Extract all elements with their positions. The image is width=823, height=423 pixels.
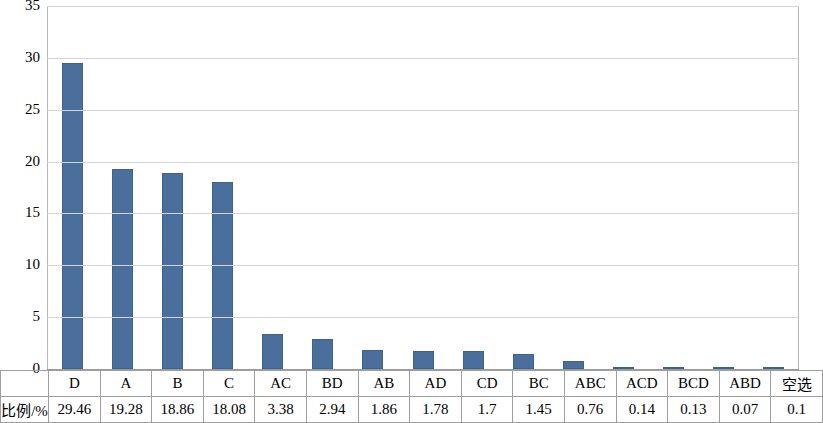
bar xyxy=(262,334,283,369)
table-value-cell: 1.7 xyxy=(461,397,513,423)
bar xyxy=(212,182,233,370)
bar xyxy=(362,350,383,369)
table-header-cell: AB xyxy=(358,371,410,397)
bar xyxy=(563,361,584,369)
gridline xyxy=(47,6,799,7)
table-header-cell: BC xyxy=(513,371,565,397)
table-header-cell: BD xyxy=(306,371,358,397)
table-value-cell: 18.08 xyxy=(203,397,255,423)
data-table-wrap: DABCACBDABADCDBCABCACDBCDABD空选 比例/%29.46… xyxy=(0,370,806,421)
gridline xyxy=(47,162,799,163)
bar xyxy=(463,351,484,369)
table-value-cell: 0.13 xyxy=(668,397,720,423)
table-value-cell: 29.46 xyxy=(49,397,101,423)
gridline xyxy=(47,265,799,266)
y-axis-tick-label: 15 xyxy=(0,205,47,220)
table-value-cell: 0.07 xyxy=(719,397,771,423)
table-header-cell: C xyxy=(203,371,255,397)
table-header-cell: D xyxy=(49,371,101,397)
table-header-cell: A xyxy=(100,371,152,397)
y-axis-tick-label: 30 xyxy=(0,50,47,65)
bar xyxy=(112,169,133,369)
bar xyxy=(312,339,333,369)
bar xyxy=(162,173,183,369)
table-header-cell: B xyxy=(152,371,204,397)
table-value-cell: 0.1 xyxy=(771,397,823,423)
y-axis-tick-label: 25 xyxy=(0,102,47,117)
table-header-cell: BCD xyxy=(668,371,720,397)
table-value-cell: 0.14 xyxy=(616,397,668,423)
table-value-cell: 2.94 xyxy=(306,397,358,423)
y-axis-tick-label: 10 xyxy=(0,257,47,272)
y-axis-tick-label: 35 xyxy=(0,0,47,13)
gridline xyxy=(47,317,799,318)
y-axis-tick-label: 5 xyxy=(0,309,47,324)
table-header-cell: AD xyxy=(410,371,462,397)
table-row-values: 比例/%29.4619.2818.8618.083.382.941.861.78… xyxy=(1,397,823,423)
table-header-cell: CD xyxy=(461,371,513,397)
table-row-label: 比例/% xyxy=(1,397,49,423)
gridline xyxy=(47,58,799,59)
table-value-cell: 0.76 xyxy=(564,397,616,423)
table-value-cell: 3.38 xyxy=(255,397,307,423)
table-row-categories: DABCACBDABADCDBCABCACDBCDABD空选 xyxy=(1,371,823,397)
table-header-cell: ABC xyxy=(564,371,616,397)
table-header-cell: ACD xyxy=(616,371,668,397)
bar xyxy=(513,354,534,369)
bars-layer xyxy=(47,6,799,370)
gridline xyxy=(47,110,799,111)
gridline xyxy=(47,213,799,214)
table-value-cell: 18.86 xyxy=(152,397,204,423)
table-value-cell: 1.45 xyxy=(513,397,565,423)
data-table: DABCACBDABADCDBCABCACDBCDABD空选 比例/%29.46… xyxy=(0,370,823,423)
table-header-cell: ABD xyxy=(719,371,771,397)
table-value-cell: 19.28 xyxy=(100,397,152,423)
table-header-cell: AC xyxy=(255,371,307,397)
table-value-cell: 1.86 xyxy=(358,397,410,423)
bar xyxy=(413,351,434,369)
y-axis-tick-label: 20 xyxy=(0,154,47,169)
plot-wrap: 05101520253035 xyxy=(47,6,799,370)
table-corner-cell xyxy=(1,371,49,397)
table-header-cell: 空选 xyxy=(771,371,823,397)
table-value-cell: 1.78 xyxy=(410,397,462,423)
